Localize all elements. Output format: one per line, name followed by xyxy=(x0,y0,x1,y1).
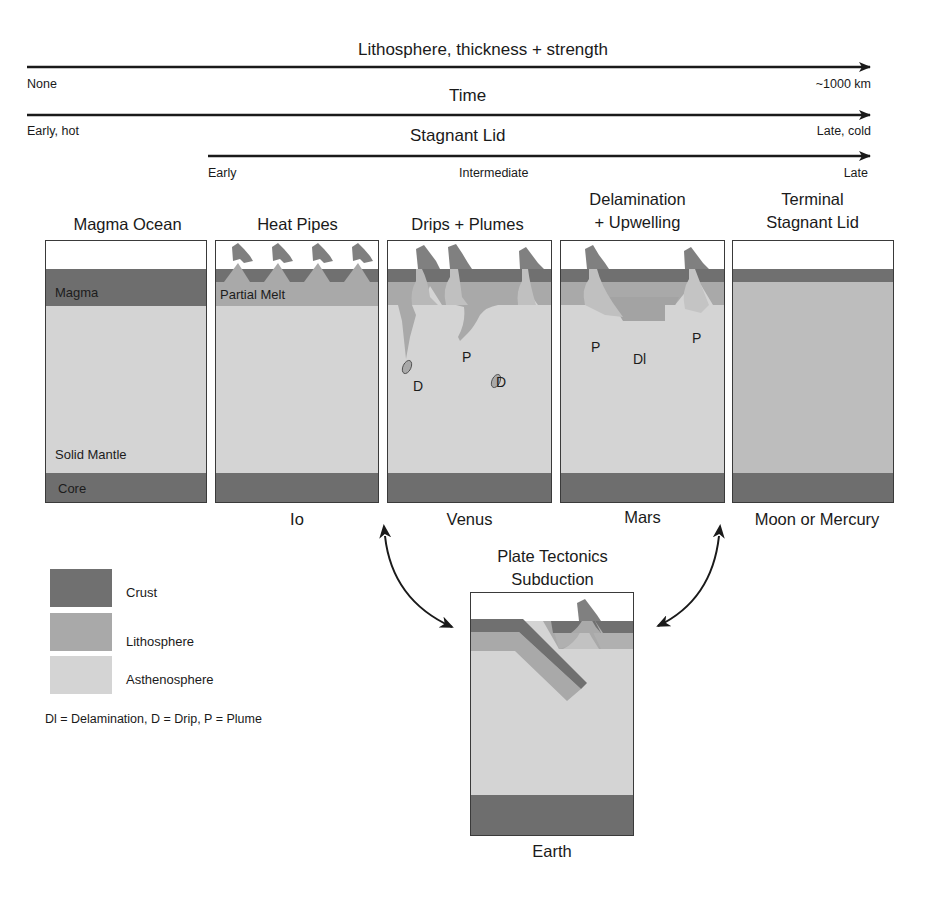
legend-swatch-asthenosphere xyxy=(50,656,112,694)
lithosphere-axis-title: Lithosphere, thickness + strength xyxy=(358,40,608,60)
legend-swatch-lithosphere xyxy=(50,613,112,651)
legend-swatch-crust xyxy=(50,569,112,607)
magma-ocean-cross-section xyxy=(46,241,207,503)
core-layer xyxy=(561,473,725,503)
time-axis-right-label: Late, cold xyxy=(817,124,871,138)
core-layer xyxy=(388,473,552,503)
planet-label-earth: Earth xyxy=(470,842,634,861)
planet-label-mars: Mars xyxy=(560,508,725,527)
time-axis-left-label: Early, hot xyxy=(27,124,79,138)
lithosphere-axis-left-label: None xyxy=(27,77,57,91)
panel-terminal-stagnant-lid xyxy=(732,240,894,503)
stagnant-lid-axis-mid-label: Intermediate xyxy=(459,166,528,180)
asthenosphere-layer xyxy=(216,306,379,473)
planet-label-venus: Venus xyxy=(387,510,552,529)
plume-marker: P xyxy=(692,330,701,346)
crust-layer xyxy=(733,269,894,282)
drips-plumes-cross-section xyxy=(388,241,552,503)
mars-earth-double-arrow xyxy=(658,536,719,626)
stage-title-heat-pipes: Heat Pipes xyxy=(215,213,380,236)
plate-tectonics-title: Plate Tectonics Subduction xyxy=(470,545,635,591)
partial-melt-label: Partial Melt xyxy=(220,287,285,302)
stage-title-magma-ocean: Magma Ocean xyxy=(45,190,210,213)
planet-label-moon-mercury: Moon or Mercury xyxy=(732,510,902,529)
stagnant-lid-axis-left-label: Early xyxy=(208,166,236,180)
plume-marker: P xyxy=(462,349,471,365)
panel-drips-plumes: D P D xyxy=(387,240,552,503)
panel-magma-ocean: Magma Solid Mantle Core xyxy=(45,240,207,503)
terminal-lid-cross-section xyxy=(733,241,894,503)
magma-label: Magma xyxy=(55,285,98,300)
lithosphere-layer xyxy=(733,282,894,473)
stagnant-lid-axis-right-label: Late xyxy=(844,166,868,180)
core-layer xyxy=(733,473,894,503)
drip-marker: D xyxy=(413,378,423,394)
core-label: Core xyxy=(58,481,86,496)
stage-title-drips-plumes: Drips + Plumes xyxy=(385,213,550,236)
core-layer xyxy=(216,473,379,503)
planet-label-io: Io xyxy=(215,510,379,529)
time-axis-title: Time xyxy=(449,86,486,106)
drip-marker: D xyxy=(496,374,506,390)
stagnant-lid-axis-title: Stagnant Lid xyxy=(410,126,505,146)
panel-delamination-upwelling: P Dl P xyxy=(560,240,725,503)
legend-label-lithosphere: Lithosphere xyxy=(126,634,194,649)
core-layer xyxy=(471,795,634,836)
panel-heat-pipes: Partial Melt xyxy=(215,240,379,503)
venus-earth-double-arrow xyxy=(385,536,452,627)
delamination-cross-section xyxy=(561,241,725,503)
legend-footnote: Dl = Delamination, D = Drip, P = Plume xyxy=(45,712,262,726)
lithosphere-axis-right-label: ~1000 km xyxy=(816,77,871,91)
solid-mantle-label: Solid Mantle xyxy=(55,447,127,462)
delamination-marker: Dl xyxy=(633,351,646,367)
legend-label-crust: Crust xyxy=(126,585,157,600)
plume-marker: P xyxy=(591,339,600,355)
subduction-cross-section xyxy=(471,593,634,836)
stage-title-delamination: Delamination + Upwelling xyxy=(555,188,720,234)
stage-title-terminal-stagnant-lid: Terminal Stagnant Lid xyxy=(730,188,895,234)
legend-label-asthenosphere: Asthenosphere xyxy=(126,672,213,687)
heat-pipes-cross-section xyxy=(216,241,379,503)
crust-layer xyxy=(561,269,725,282)
panel-plate-tectonics xyxy=(470,592,634,836)
